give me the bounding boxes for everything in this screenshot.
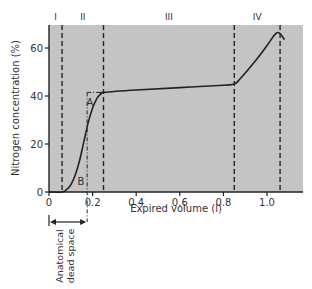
y-tick-label: 40	[30, 91, 43, 102]
dead-space-label-line2: dead space	[65, 229, 76, 284]
annotation-a: A	[86, 97, 93, 108]
phase-label: IV	[253, 12, 263, 22]
phase-labels: IIIIIIIV	[54, 12, 262, 22]
annotation-b: B	[78, 176, 85, 187]
x-axis-title: Expired volume (l)	[130, 203, 222, 214]
phase-label: II	[80, 12, 85, 22]
x-tick-label: 0	[46, 197, 52, 208]
y-tick-label: 60	[30, 43, 43, 54]
y-tick-label: 20	[30, 139, 43, 150]
y-axis-title: Nitrogen concentration (%)	[10, 40, 21, 176]
y-axis-ticks: 0204060	[30, 43, 49, 198]
x-tick-label: 0.2	[85, 197, 101, 208]
dead-space-indicator	[49, 215, 86, 226]
x-tick-label: 1.0	[259, 197, 275, 208]
nitrogen-washout-chart: 0204060 00.20.40.60.81.0 IIIIIIIV A B Ex…	[0, 0, 312, 289]
y-tick-label: 0	[37, 187, 43, 198]
phase-label: III	[165, 12, 173, 22]
dead-space-label-line1: Anatomical	[54, 229, 65, 282]
phase-label: I	[54, 12, 57, 22]
